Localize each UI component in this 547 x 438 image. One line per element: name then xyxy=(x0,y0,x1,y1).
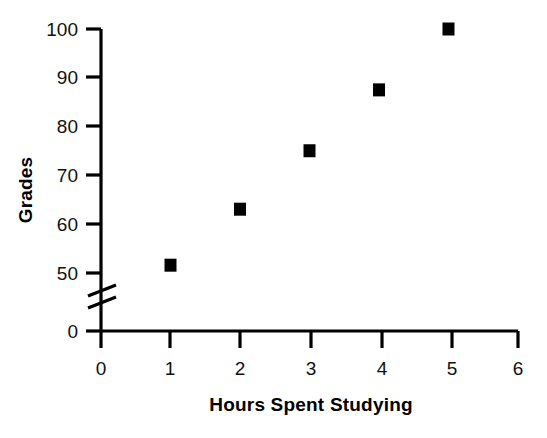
plot-canvas: 100 90 80 70 60 50 0 0 1 2 3 4 5 6 Hours xyxy=(0,0,547,438)
y-axis-title: Grades xyxy=(15,157,36,224)
data-point[interactable] xyxy=(443,23,455,36)
x-tick-label-6: 6 xyxy=(513,358,524,379)
y-tick-label-70: 70 xyxy=(57,165,78,186)
data-point[interactable] xyxy=(304,144,316,157)
x-tick-label-2: 2 xyxy=(235,358,246,379)
data-point[interactable] xyxy=(234,203,246,216)
y-tick-label-50: 50 xyxy=(57,263,78,284)
x-tick-label-3: 3 xyxy=(306,358,317,379)
x-tick-label-5: 5 xyxy=(447,358,458,379)
y-tick-label-0: 0 xyxy=(67,321,78,342)
x-tick-label-0: 0 xyxy=(96,358,107,379)
x-tick-label-1: 1 xyxy=(165,358,176,379)
x-axis-title: Hours Spent Studying xyxy=(209,394,413,415)
y-tick-label-60: 60 xyxy=(57,214,78,235)
y-tick-label-90: 90 xyxy=(57,67,78,88)
y-tick-label-100: 100 xyxy=(46,19,78,40)
scatter-plot-figure: 100 90 80 70 60 50 0 0 1 2 3 4 5 6 Hours xyxy=(0,0,547,438)
data-point-group xyxy=(165,23,455,272)
data-point[interactable] xyxy=(373,83,385,96)
x-tick-label-4: 4 xyxy=(377,358,388,379)
data-point[interactable] xyxy=(165,259,177,272)
y-tick-label-80: 80 xyxy=(57,116,78,137)
